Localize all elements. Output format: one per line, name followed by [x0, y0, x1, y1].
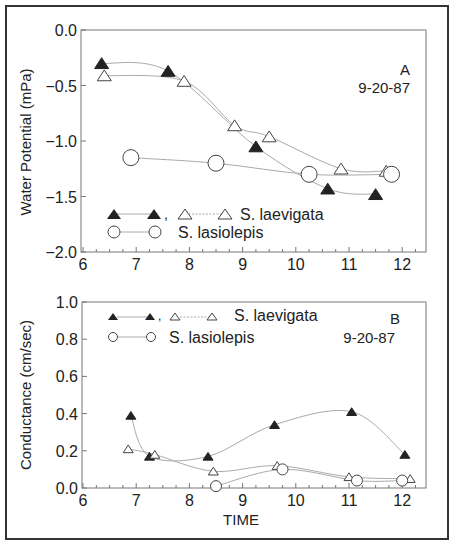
y-tick-label: −2.0: [45, 244, 77, 261]
x-tick-label: 11: [341, 256, 358, 273]
open-triangle-marker: [334, 163, 348, 174]
open-circle-marker: [123, 150, 139, 166]
x-tick-label: 7: [132, 492, 141, 509]
filled-triangle-marker: [203, 452, 213, 460]
series-line: [104, 75, 386, 171]
open-circle-icon: [147, 333, 156, 342]
series-line: [131, 158, 392, 175]
open-triangle-marker: [177, 75, 191, 86]
legend-label-laevigata: S. laevigata: [234, 307, 318, 324]
panel-a-date: 9-20-87: [358, 79, 410, 96]
panel-b-letter: B: [390, 310, 400, 327]
x-tick-label: 6: [79, 256, 88, 273]
panel-a: 67891011120.0−0.5−1.0−1.5−2.0 A 9-20-87 …: [17, 22, 426, 273]
open-circle-marker: [301, 166, 317, 182]
x-tick-label: 9: [238, 492, 247, 509]
y-tick-label: 0.0: [55, 22, 77, 39]
filled-triangle-marker: [347, 408, 357, 416]
filled-triangle-marker: [161, 65, 175, 76]
legend-label-lasiolepis: S. lasiolepis: [178, 224, 263, 241]
y-tick-label: 1.0: [56, 294, 78, 311]
open-circle-marker: [277, 464, 288, 475]
legend-label-lasiolepis: S. lasiolepis: [169, 329, 254, 346]
y-tick-label: 0.8: [56, 331, 78, 348]
open-triangle-marker: [262, 131, 276, 142]
panel-a-ylabel: Water Potential (mPa): [17, 69, 34, 216]
panel-a-legend: , S. laevigata S. lasiolepis: [107, 206, 324, 241]
panel-b-legend: , S. laevigata S. lasiolepis: [108, 307, 318, 346]
legend-comma: ,: [164, 206, 168, 222]
open-circle-marker: [208, 155, 224, 171]
x-tick-label: 10: [287, 256, 305, 273]
open-circle-icon: [109, 333, 118, 342]
open-circle-marker: [397, 475, 408, 486]
y-tick-label: 0.6: [56, 368, 78, 385]
open-circle-marker: [211, 481, 222, 492]
filled-triangle-marker: [126, 411, 136, 419]
y-tick-label: 0.0: [56, 480, 78, 497]
x-tick-label: 12: [393, 256, 411, 273]
y-tick-label: 0.2: [56, 443, 78, 460]
panel-b-lines: [128, 410, 410, 486]
panel-b: 67891011120.00.20.40.60.81.0 B 9-20-87 C…: [17, 294, 426, 528]
filled-triangle-marker: [270, 421, 280, 429]
panel-b-xlabel: TIME: [223, 511, 259, 528]
open-circle-marker: [384, 166, 400, 182]
series-line: [128, 449, 410, 479]
x-tick-label: 10: [287, 492, 305, 509]
y-tick-label: −1.0: [45, 133, 77, 150]
x-tick-label: 6: [79, 492, 88, 509]
open-triangle-marker: [123, 445, 133, 453]
panel-b-markers: [123, 408, 415, 492]
y-tick-label: −1.5: [45, 189, 77, 206]
x-tick-label: 8: [185, 492, 194, 509]
filled-triangle-marker: [321, 183, 335, 194]
x-tick-label: 9: [238, 256, 247, 273]
x-tick-label: 12: [393, 492, 411, 509]
figure: 67891011120.0−0.5−1.0−1.5−2.0 A 9-20-87 …: [0, 0, 455, 548]
open-circle-icon: [108, 226, 120, 238]
x-tick-label: 8: [185, 256, 194, 273]
legend-comma: ,: [158, 309, 161, 323]
open-triangle-icon: [170, 313, 180, 320]
panel-a-lines: [102, 62, 392, 194]
panel-a-letter: A: [400, 61, 410, 78]
series-line: [131, 410, 405, 460]
open-circle-marker: [351, 475, 362, 486]
y-tick-label: −0.5: [45, 78, 77, 95]
legend-label-laevigata: S. laevigata: [240, 206, 324, 223]
x-tick-label: 11: [341, 492, 358, 509]
open-circle-icon: [149, 226, 161, 238]
panel-b-date: 9-20-87: [343, 329, 395, 346]
x-tick-label: 7: [132, 256, 141, 273]
y-tick-label: 0.4: [56, 406, 78, 423]
filled-triangle-icon: [108, 313, 118, 320]
panel-b-ylabel: Conductance (cm/sec): [17, 320, 34, 470]
panel-a-markers: [95, 58, 400, 200]
